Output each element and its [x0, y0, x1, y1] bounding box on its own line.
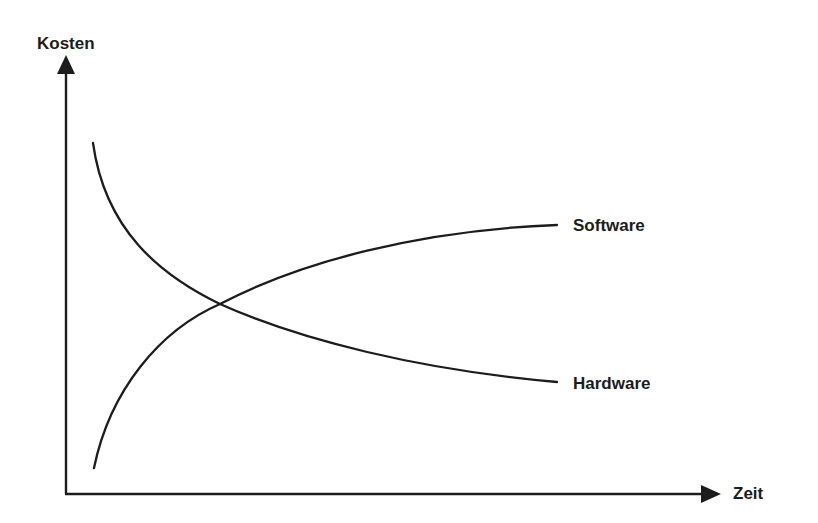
software-series-label: Software — [573, 217, 645, 234]
y-axis-arrow-icon — [57, 55, 75, 74]
x-axis-arrow-icon — [701, 485, 721, 503]
y-axis-label: Kosten — [37, 35, 95, 52]
software-curve — [94, 225, 557, 468]
hardware-series-label: Hardware — [573, 375, 650, 392]
x-axis-label: Zeit — [733, 485, 763, 502]
cost-diagram — [0, 0, 818, 523]
